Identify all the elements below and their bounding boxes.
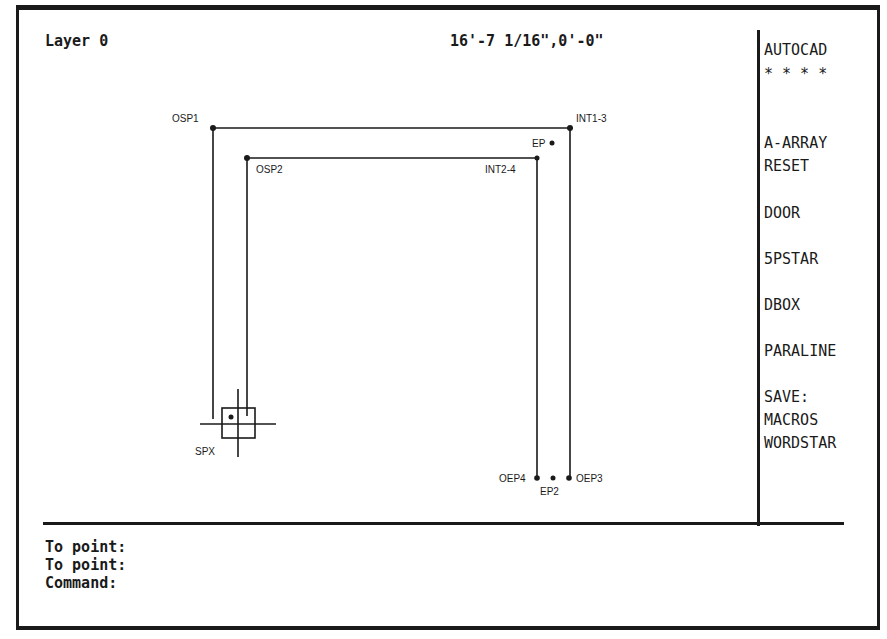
label-ep: EP bbox=[532, 138, 546, 149]
menu-item-macros[interactable]: MACROS bbox=[764, 412, 818, 428]
label-ep2: EP2 bbox=[540, 486, 559, 497]
command-history-line: To point: bbox=[45, 556, 126, 574]
menu-item-a-array[interactable]: A-ARRAY bbox=[764, 135, 827, 151]
menu-item-5pstar[interactable]: 5PSTAR bbox=[764, 251, 818, 267]
menu-item-dbox[interactable]: DBOX bbox=[764, 297, 800, 313]
label-osp1: OSP1 bbox=[172, 113, 199, 124]
drawing-area[interactable]: OSP1 OSP2 INT1-3 INT2-4 EP OEP4 OEP3 EP2… bbox=[0, 0, 887, 639]
label-oep3: OEP3 bbox=[576, 473, 603, 484]
label-spx: SPX bbox=[195, 446, 215, 457]
command-history-line: To point: bbox=[45, 538, 126, 556]
menu-item-autocad[interactable]: AUTOCAD bbox=[764, 42, 827, 58]
label-int1-3: INT1-3 bbox=[576, 113, 607, 124]
label-int2-4: INT2-4 bbox=[485, 164, 516, 175]
command-prompt[interactable]: Command: bbox=[45, 574, 126, 592]
label-oep4: OEP4 bbox=[499, 473, 526, 484]
menu-divider bbox=[757, 30, 760, 526]
outer-polyline bbox=[213, 128, 570, 478]
menu-item-reset[interactable]: RESET bbox=[764, 158, 809, 174]
command-line-area[interactable]: To point: To point: Command: bbox=[45, 538, 126, 592]
label-osp2: OSP2 bbox=[256, 164, 283, 175]
menu-item-wordstar[interactable]: WORDSTAR bbox=[764, 435, 836, 451]
menu-item-paraline[interactable]: PARALINE bbox=[764, 343, 836, 359]
menu-item-stars[interactable]: * * * * bbox=[764, 66, 827, 82]
menu-item-save[interactable]: SAVE: bbox=[764, 389, 809, 405]
command-divider bbox=[43, 522, 844, 525]
inner-polyline bbox=[247, 158, 537, 478]
menu-item-door[interactable]: DOOR bbox=[764, 205, 800, 221]
